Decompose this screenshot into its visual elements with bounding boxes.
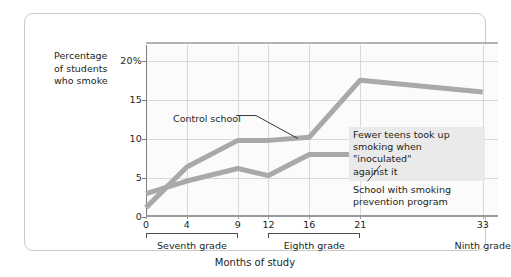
grade-group-label: Eighth grade <box>284 240 345 251</box>
x-tick-label: 12 <box>262 219 274 230</box>
grade-group-label: Seventh grade <box>157 240 227 251</box>
grade-group-label: Ninth grade <box>455 240 511 251</box>
grade-bracket <box>268 233 360 238</box>
x-tick-label: 0 <box>143 219 149 230</box>
y-axis-title-line-2: of students <box>54 63 116 76</box>
x-tick-label: 4 <box>184 219 190 230</box>
y-axis-title-line-1: Percentage <box>54 50 116 63</box>
x-tick-mark <box>309 215 310 219</box>
x-tick-label: 16 <box>303 219 315 230</box>
x-tick-mark <box>187 215 188 219</box>
x-axis-tick-labels: 04912162133 <box>146 219 498 233</box>
grade-group-brackets: Seventh gradeEighth gradeNinth grade <box>146 233 498 257</box>
x-axis-title: Months of study <box>25 257 485 268</box>
annotation-inoculated-callout: Fewer teens took up smoking when "inocul… <box>349 127 485 181</box>
x-tick-mark <box>146 215 147 219</box>
x-tick-label: 21 <box>354 219 366 230</box>
annotation-control-school: Control school <box>173 113 241 125</box>
y-tick-label: 10 <box>130 133 143 144</box>
y-tick-label: 15 <box>130 94 143 105</box>
y-axis-tick-labels: 05101520% <box>109 45 142 217</box>
figure-frame: Percentage of students who smoke 0510152… <box>24 13 486 251</box>
x-tick-mark <box>238 215 239 219</box>
annotation-prevention-program: School with smoking prevention program <box>353 184 451 208</box>
x-tick-mark <box>268 215 269 219</box>
x-tick-mark <box>360 215 361 219</box>
y-tick-label: 20% <box>120 55 142 66</box>
y-axis-title-line-3: who smoke <box>54 75 116 88</box>
x-tick-label: 33 <box>477 219 489 230</box>
plot-top-rule <box>146 42 498 44</box>
x-tick-mark <box>483 215 484 219</box>
grade-bracket <box>146 233 238 238</box>
y-axis-title: Percentage of students who smoke <box>54 50 116 88</box>
x-tick-label: 9 <box>235 219 241 230</box>
